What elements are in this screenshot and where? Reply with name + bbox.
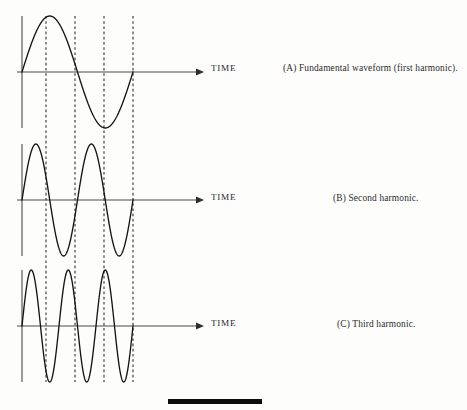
axis-label-time-a: TIME: [211, 63, 236, 73]
caption-panel-b: (B) Second harmonic.: [333, 193, 419, 203]
harmonics-figure: TIME TIME TIME (A) Fundamental waveform …: [0, 0, 467, 410]
figure-canvas: [0, 0, 467, 410]
footer-rule: [168, 399, 262, 404]
panel-a-group: [17, 16, 204, 128]
caption-panel-a: (A) Fundamental waveform (first harmonic…: [283, 63, 458, 73]
arrow-head-icon-b: [196, 196, 204, 203]
panel-c-group: [17, 270, 204, 382]
axis-label-time-c: TIME: [211, 318, 236, 328]
caption-panel-c: (C) Third harmonic.: [337, 319, 415, 329]
arrow-head-icon-a: [196, 68, 204, 75]
axis-label-time-b: TIME: [211, 192, 236, 202]
panel-b-group: [17, 144, 204, 256]
arrow-head-icon-c: [196, 322, 204, 329]
